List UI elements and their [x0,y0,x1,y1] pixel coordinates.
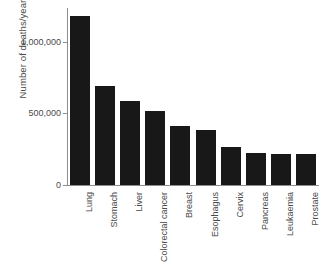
x-axis-tick-label: Cervix [235,192,245,218]
bar [196,130,216,185]
x-axis-tick-label: Liver [134,192,144,212]
y-axis-tick-label: 500,000 [28,108,61,118]
y-axis-tick-label: 1,000,000 [21,37,61,47]
y-axis-tick-mark [63,185,67,186]
x-axis-tick-label: Lung [84,192,94,212]
x-axis-tick-label: Stomach [109,192,119,228]
bar [246,153,266,185]
bar [70,16,90,185]
bar [95,86,115,185]
bar [221,147,241,185]
x-axis-tick-label: Prostate [310,192,320,226]
bar [296,154,316,185]
plot-area: 0500,0001,000,000 LungStomachLiverColore… [67,6,319,185]
y-axis-tick-label: 0 [56,180,61,190]
bars-layer [67,6,319,185]
bar [271,154,291,186]
x-axis-line [67,185,319,186]
x-axis-tick-label: Breast [184,192,194,218]
bar [120,101,140,185]
bar-chart-figure: Number of deaths/year 0500,0001,000,000 … [0,0,324,273]
y-axis-title: Number of deaths/year [16,0,30,124]
bar [145,111,165,185]
x-axis-tick-label: Esophagus [210,192,220,237]
x-axis-tick-label: Leukaemia [285,192,295,236]
x-axis-tick-label: Pancreas [260,192,270,230]
x-axis-tick-label: Colorectal cancer [159,192,169,262]
bar [170,126,190,185]
